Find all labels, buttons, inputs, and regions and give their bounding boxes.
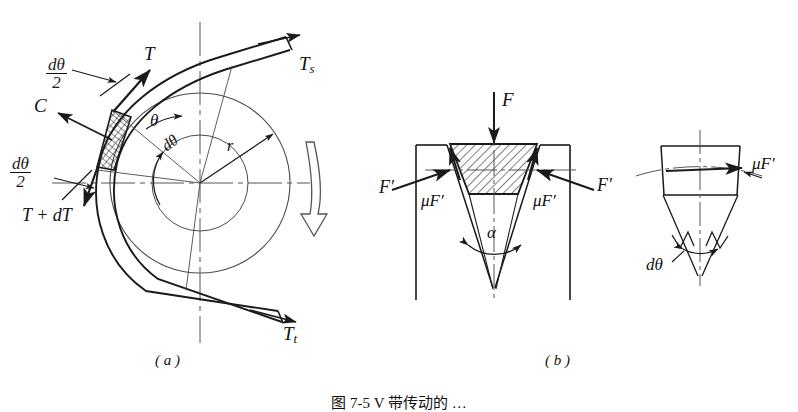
force-arrow-Ts — [258, 35, 300, 44]
wedge-taper-right — [702, 195, 738, 276]
force-arrow-friction-right-view — [666, 168, 742, 171]
leader-dtheta-wedge — [672, 251, 684, 262]
label-theta: θ — [150, 112, 158, 129]
force-arrow-T-plus-dT — [84, 160, 100, 206]
groove-apex-line-right — [496, 194, 518, 289]
wedge-pitch-curve — [636, 167, 762, 176]
label-dtheta-half-lower: dθ 2 — [10, 155, 31, 191]
label-dtheta-wedge: dθ — [646, 256, 663, 273]
figure-caption: 图 7-5 V 带传动的 … — [0, 391, 798, 412]
force-arrow-Tt — [250, 310, 296, 322]
panel-b-label: ( b ) — [545, 352, 570, 369]
label-Tt: Tt — [283, 324, 297, 346]
label-F-prime-right: F′ — [597, 176, 612, 194]
force-arrow-F-prime-right — [537, 170, 594, 190]
label-C: C — [34, 96, 47, 115]
label-F: F — [502, 90, 514, 109]
rotation-direction-arrow — [301, 142, 327, 236]
label-F-prime-left: F′ — [379, 178, 394, 196]
element-radial-line-lower — [97, 170, 200, 183]
wedge-right-edge — [737, 146, 740, 195]
force-arrow-C — [58, 113, 112, 140]
wedge-taper-left — [663, 195, 698, 276]
wedge-left-edge — [661, 146, 664, 195]
label-alpha: α — [487, 224, 496, 241]
panel-a-graphics — [52, 22, 327, 343]
label-T-plus-dT: T + dT — [22, 206, 72, 224]
label-T: T — [144, 44, 155, 63]
panel-a-label: ( a ) — [155, 352, 180, 369]
wrap-radial-lower — [186, 183, 200, 290]
label-friction-left: μF′ — [421, 192, 444, 209]
tick-dtheta-half-upper — [100, 74, 130, 96]
label-friction-right: μF′ — [533, 192, 556, 209]
belt-end-slack — [286, 37, 292, 50]
label-Ts: Ts — [299, 54, 315, 76]
label-friction-right-view: μF′ — [752, 155, 775, 172]
break-mark-right — [706, 232, 728, 248]
force-arrow-F-prime-left — [392, 170, 450, 190]
leader-dtheta-half-upper — [72, 70, 116, 82]
label-radius: r — [227, 138, 233, 154]
label-dtheta-half-upper: dθ 2 — [46, 56, 67, 92]
belt-inner-edge — [114, 50, 290, 322]
